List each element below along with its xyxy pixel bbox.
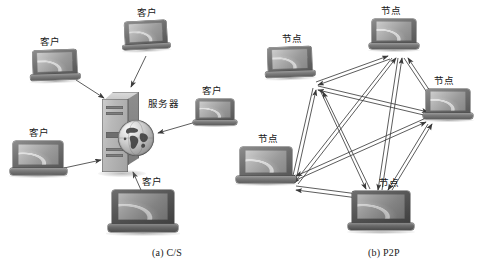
laptop-shadow [235, 182, 296, 186]
laptop-screen [118, 193, 169, 220]
laptop-screen [430, 91, 466, 111]
peer-label-right: 节点 [434, 76, 455, 86]
p2p-link-ul-top-b [318, 59, 390, 85]
laptop-shadow [347, 230, 415, 234]
laptop-screen [199, 101, 230, 118]
cs-link-top-center [131, 56, 146, 87]
laptop-screen [128, 22, 163, 42]
laptop-shadow [368, 49, 420, 52]
p2p-link-top-bottom-b [382, 58, 402, 190]
caption-cs: (a) C/S [152, 247, 182, 258]
laptop-lid [267, 46, 312, 73]
laptop-lid [196, 99, 234, 120]
p2p-link-right-left-a [296, 118, 426, 176]
laptop-shadow [106, 231, 179, 235]
client-label-right: 客户 [202, 86, 223, 96]
laptop-lid [372, 19, 416, 44]
peer-label-upper-left: 节点 [282, 34, 303, 44]
server-drive-slot [106, 112, 123, 115]
client-label-bottom-left: 客户 [29, 128, 50, 138]
client-label-top-center: 客户 [137, 8, 158, 18]
laptop-shadow [422, 119, 474, 122]
p2p-link-ul-top-a [316, 56, 388, 82]
p2p-link-left-bottom-b [296, 190, 358, 198]
p2p-link-ul-left-b [296, 90, 316, 180]
cs-link-bottom-left [64, 160, 101, 168]
network-architecture-figure: 客户 客户 客户 客户 [0, 0, 477, 271]
laptop-screen [376, 21, 412, 41]
globe-icon [118, 120, 154, 156]
laptop-screen [18, 144, 59, 166]
laptop-lid [352, 191, 410, 224]
p2p-link-top-bottom-a [378, 58, 398, 190]
peer-laptop-top[interactable] [372, 19, 416, 53]
server-drive-slot [106, 106, 123, 109]
peer-laptop-upper-left[interactable] [267, 46, 312, 82]
laptop-lid [32, 49, 77, 76]
laptop-screen [271, 49, 308, 70]
p2p-link-right-left-b [296, 122, 426, 180]
client-laptop-bottom[interactable] [112, 190, 174, 237]
server-label: 服务器 [148, 99, 179, 109]
peer-laptop-right[interactable] [426, 89, 470, 123]
laptop-lid [240, 147, 292, 177]
laptop-shadow [193, 125, 238, 128]
p2p-link-ul-right-a [318, 86, 428, 112]
laptop-lid [124, 20, 167, 46]
peer-label-bottom: 节点 [379, 178, 400, 188]
p2p-link-ul-bottom-b [323, 92, 370, 189]
peer-label-top: 节点 [381, 6, 402, 16]
p2p-link-ul-left-a [292, 88, 313, 180]
laptop-lid [426, 89, 470, 114]
cs-link-right [158, 122, 196, 133]
laptop-lid [13, 141, 63, 169]
client-label-bottom: 客户 [142, 177, 163, 187]
peer-label-left: 节点 [258, 134, 279, 144]
laptop-shadow [9, 174, 68, 177]
laptop-screen [36, 52, 73, 73]
client-label-top-left: 客户 [40, 37, 61, 47]
laptop-screen [357, 194, 405, 219]
client-laptop-top-left[interactable] [32, 49, 77, 85]
server-icon[interactable] [98, 86, 154, 178]
client-laptop-right[interactable] [196, 99, 234, 128]
p2p-link-ul-right-b [318, 90, 428, 116]
p2p-link-ul-bottom-a [320, 90, 366, 189]
laptop-lid [112, 190, 174, 225]
laptop-screen [245, 150, 288, 173]
p2p-link-left-bottom-a [296, 186, 358, 194]
caption-p2p: (b) P2P [368, 247, 400, 258]
peer-laptop-bottom[interactable] [352, 191, 410, 235]
client-laptop-top-center[interactable] [124, 20, 168, 54]
peer-laptop-left[interactable] [240, 147, 292, 187]
client-laptop-bottom-left[interactable] [13, 141, 63, 179]
